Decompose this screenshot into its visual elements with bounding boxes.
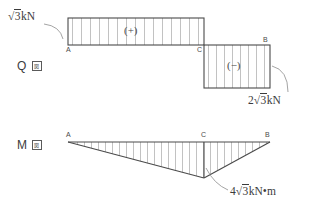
cjk-zu-glyph-q: 図 [32, 61, 42, 71]
force-label-left: √3kN [8, 11, 35, 23]
engineering-diagram-canvas: √3kN Q 図 A C B (+) (−) 2√3kN M 図 A C B 4… [0, 0, 317, 209]
force-label-right: 2√3kN [248, 95, 281, 107]
q-diagram-label: Q 図 [17, 60, 42, 72]
m-diagram-label: M 図 [17, 139, 42, 151]
cjk-zu-glyph-m: 図 [32, 140, 42, 150]
leader-line-right-force [272, 66, 288, 92]
q-positive-sign: (+) [124, 25, 138, 36]
m-diagram-letter: M [17, 138, 28, 152]
q-point-label-c: C [197, 46, 202, 53]
q-point-label-a: A [66, 46, 71, 53]
leader-line-left-force [44, 24, 63, 39]
q-diagram-letter: Q [17, 59, 27, 73]
q-negative-sign: (−) [227, 60, 241, 71]
moment-value-label: 4√3kN•m [230, 186, 276, 198]
m-diagram-shape [68, 140, 272, 182]
q-point-label-b: B [263, 36, 268, 43]
m-point-label-a: A [66, 131, 71, 138]
m-point-label-b: B [265, 131, 270, 138]
m-point-label-c: C [201, 131, 206, 138]
